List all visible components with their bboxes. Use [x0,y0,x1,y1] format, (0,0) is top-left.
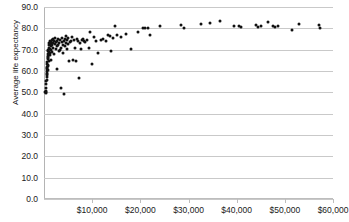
data-point [110,49,113,52]
data-point [87,46,90,49]
data-point [61,51,64,54]
x-axis-tick-label: $10,000 [77,205,108,215]
y-axis-line [44,7,45,199]
y-axis-tick-label: 0.0 [26,194,38,204]
data-point [116,33,119,36]
data-point [129,48,132,51]
data-point [89,30,92,33]
data-point [209,22,212,25]
y-axis-tick-label: 90.0 [21,2,38,12]
data-point [146,27,149,30]
y-axis-tick-label: 20.0 [21,151,38,161]
gridline-horizontal [44,135,333,136]
data-point [46,74,49,77]
data-point [298,23,301,26]
data-point [86,39,89,42]
data-point [79,47,82,50]
gridline-horizontal [44,71,333,72]
y-axis-tick-label: 60.0 [21,66,38,76]
data-point [266,20,269,23]
data-point [45,90,48,93]
data-point [46,68,49,71]
data-point [124,32,127,35]
data-point [56,67,59,70]
x-axis-tick-mark [140,199,141,203]
data-point [158,24,161,27]
data-point [47,64,50,67]
data-point [60,86,63,89]
data-point [45,78,48,81]
y-axis-tick-label: 40.0 [21,109,38,119]
x-axis-tick-label: $20,000 [125,205,156,215]
x-axis-tick-label: $40,000 [221,205,252,215]
x-axis-tick-mark [189,199,190,203]
x-axis-tick-mark [285,199,286,203]
data-point [45,87,48,90]
data-point [318,26,321,29]
gridline-horizontal [44,7,333,8]
gridline-horizontal [44,50,333,51]
x-axis-tick-labels: $10,000$20,000$30,000$40,000$50,000$60,0… [44,199,333,222]
data-point [240,25,243,28]
data-point [276,25,279,28]
gridline-horizontal [44,178,333,179]
gridline-horizontal [44,114,333,115]
gridline-horizontal [44,156,333,157]
data-point [68,60,71,63]
data-point [104,40,107,43]
data-point [199,23,202,26]
data-point [136,30,139,33]
data-point [108,34,111,37]
scatter-chart: Average life expectancy 0.010.020.030.04… [0,0,349,222]
data-point [291,28,294,31]
data-point [49,59,52,62]
data-point [95,40,98,43]
data-point [53,52,56,55]
x-axis-tick-mark [92,199,93,203]
data-point [96,51,99,54]
data-point [233,24,236,27]
data-point [77,77,80,80]
data-point [218,19,221,22]
x-axis-tick-mark [237,199,238,203]
x-axis-tick-label: $60,000 [318,205,349,215]
y-axis-tick-label: 30.0 [21,130,38,140]
y-axis-tick-labels: 0.010.020.030.040.050.060.070.080.090.0 [0,0,41,222]
data-point [92,35,95,38]
data-point [65,47,68,50]
data-point [63,93,66,96]
x-axis-tick-mark [333,199,334,203]
data-point [259,25,262,28]
x-axis-tick-label: $50,000 [269,205,300,215]
gridline-horizontal [44,92,333,93]
data-point [112,36,115,39]
data-point [78,42,81,45]
x-axis-tick-label: $30,000 [173,205,204,215]
data-point [120,35,123,38]
y-axis-tick-label: 50.0 [21,87,38,97]
data-point [74,59,77,62]
y-axis-tick-label: 10.0 [21,173,38,183]
y-axis-tick-label: 70.0 [21,45,38,55]
data-point [182,27,185,30]
plot-area [44,7,333,199]
y-axis-tick-label: 80.0 [21,23,38,33]
data-point [91,62,94,65]
data-point [45,82,48,85]
data-point [73,46,76,49]
data-point [114,25,117,28]
data-point [148,33,151,36]
